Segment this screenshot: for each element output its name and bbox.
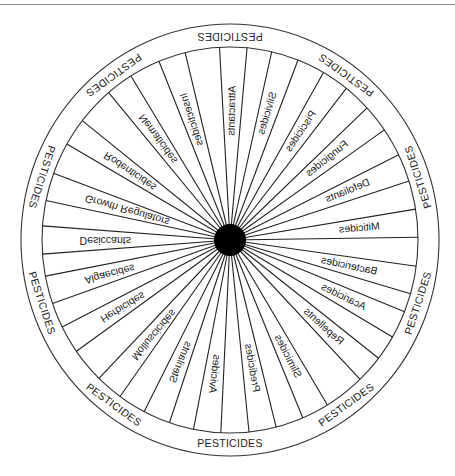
spoke-line (230, 48, 247, 240)
ring-label-pesticides: PESTICIDES (84, 52, 144, 100)
spoke-line (43, 226, 230, 240)
spoke-line (230, 240, 392, 337)
sector-label-predicides: Predicides (243, 343, 263, 393)
spoke-line (220, 47, 230, 240)
ring-label-pesticides: PESTICIDES (316, 52, 376, 100)
spoke-line (230, 240, 303, 418)
ring-label-pesticides: PESTICIDES (197, 437, 262, 449)
pesticides-wheel-diagram: PESTICIDESPESTICIDESPESTICIDESPESTICIDES… (0, 0, 455, 476)
spoke-line (230, 240, 249, 432)
ring-label-pesticides: PESTICIDES (316, 380, 376, 428)
spoke-line (230, 88, 346, 240)
sector-label-defoliants: Defoliants (323, 176, 371, 205)
ring-label-pesticides: PESTICIDES (27, 144, 59, 210)
sector-label-miticides: Miticides (338, 219, 380, 235)
sector-label-rodenticides: Rodenticides (101, 150, 158, 194)
sector-label-desiccants: Desiccants (80, 235, 131, 247)
wheel-hub (214, 224, 246, 256)
sector-label-molluscicides: Molluscicides (130, 307, 179, 363)
ring-label-pesticides: PESTICIDES (84, 380, 144, 428)
spoke-line (230, 181, 409, 240)
sector-label-acaricides: Acaricides (320, 280, 369, 312)
spoke-line (230, 237, 418, 240)
spoke-line (221, 240, 230, 433)
sector-label-sterilants: Sterilants (167, 340, 195, 385)
ring-label-pesticides: PESTICIDES (402, 270, 434, 336)
spoke-line (230, 240, 405, 312)
spoke-line (230, 240, 276, 427)
spoke-line (43, 240, 230, 254)
ring-label-pesticides: PESTICIDES (402, 144, 434, 210)
ring-label-pesticides: PESTICIDES (197, 31, 262, 43)
sector-label-attractants: Attractants (225, 85, 238, 135)
sector-label-fungicides: Fungicides (303, 137, 350, 178)
spoke-line (185, 53, 230, 240)
sector-label-avicides: Avicides (207, 354, 224, 394)
spoke-line (45, 240, 230, 276)
